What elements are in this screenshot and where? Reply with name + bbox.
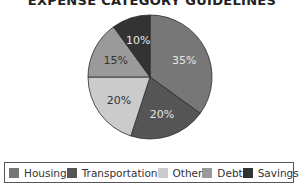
legend-item-other: Other bbox=[158, 167, 203, 179]
legend-item-debt: Debt bbox=[202, 167, 242, 179]
legend-item-savings: Savings bbox=[243, 167, 299, 179]
legend-item-transportation: Transportation bbox=[67, 167, 158, 179]
legend-label: Other bbox=[173, 167, 203, 179]
legend-label: Housing bbox=[24, 167, 67, 179]
legend-swatch bbox=[9, 168, 19, 178]
data-label-other: 20% bbox=[107, 94, 131, 107]
legend-swatch bbox=[67, 168, 77, 178]
data-label-transportation: 20% bbox=[150, 108, 174, 121]
data-label-savings: 10% bbox=[126, 34, 150, 47]
legend-item-housing: Housing bbox=[9, 167, 67, 179]
legend-swatch bbox=[243, 168, 253, 178]
legend-swatch bbox=[158, 168, 168, 178]
legend-label: Transportation bbox=[82, 167, 158, 179]
legend-label: Debt bbox=[217, 167, 242, 179]
data-label-debt: 15% bbox=[104, 54, 128, 67]
pie-chart: 35%20%20%15%10% bbox=[0, 0, 304, 160]
legend-label: Savings bbox=[258, 167, 299, 179]
legend-swatch bbox=[202, 168, 212, 178]
data-label-housing: 35% bbox=[172, 54, 196, 67]
legend: HousingTransportationOtherDebtSavings bbox=[4, 162, 294, 183]
